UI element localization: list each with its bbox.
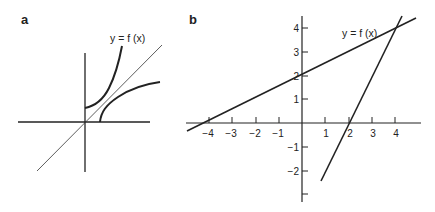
- y-tick-label: 4: [293, 23, 299, 34]
- panel-b-line-inverse: [321, 16, 402, 181]
- y-tick-label: 1: [293, 94, 299, 105]
- panel-b-function-label: y = f (x): [342, 27, 377, 39]
- panel-a-function-label: y = f (x): [110, 32, 145, 44]
- x-tick-label: 4: [393, 128, 399, 139]
- panel-b-x-tick-labels: −4 −3 −2 −1 1 2 3 4: [202, 128, 399, 139]
- x-tick-label: 1: [323, 128, 329, 139]
- x-tick-label: 2: [347, 128, 353, 139]
- x-tick-label: 3: [370, 128, 376, 139]
- panel-a-identity-line: [37, 45, 162, 171]
- figure: a y = f (x) b: [0, 0, 435, 212]
- panel-b-y-ticks: [302, 28, 308, 194]
- panel-a-label: a: [21, 12, 29, 27]
- y-tick-label: −1: [288, 142, 300, 153]
- x-tick-label: −4: [202, 128, 214, 139]
- y-tick-label: −2: [288, 166, 300, 177]
- panel-b-label: b: [189, 12, 197, 27]
- y-tick-label: 3: [293, 47, 299, 58]
- panel-b-y-tick-labels: 4 3 2 1 −1 −2: [288, 23, 300, 177]
- x-tick-label: −3: [225, 128, 237, 139]
- panel-a: a y = f (x): [18, 12, 162, 172]
- x-tick-label: −1: [272, 128, 284, 139]
- panel-b: b −4 −3 −2 −1: [186, 12, 421, 202]
- x-tick-label: −2: [249, 128, 261, 139]
